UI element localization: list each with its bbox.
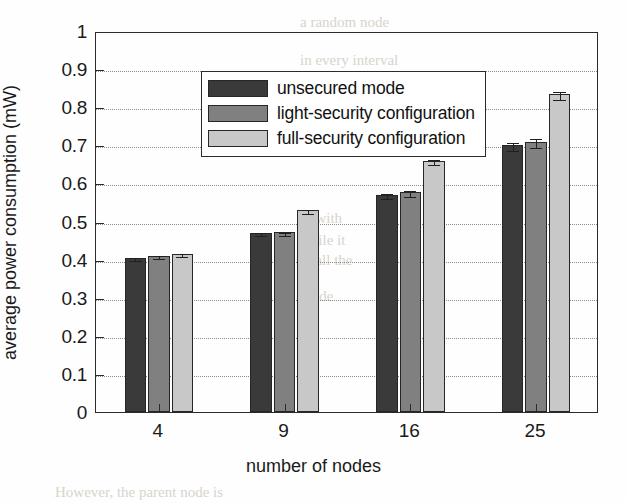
error-bar-cap — [530, 139, 542, 140]
bar — [525, 142, 546, 413]
error-bar — [536, 139, 537, 148]
bar — [148, 256, 169, 412]
x-axis-tick-label: 9 — [278, 420, 289, 442]
error-bar-cap — [553, 100, 565, 101]
error-bar-cap — [153, 259, 165, 260]
y-axis-tick-label: 0.9 — [61, 59, 87, 81]
error-bar-cap — [279, 233, 291, 234]
y-axis-tick-label: 0 — [77, 402, 87, 424]
error-bar-cap — [302, 210, 314, 211]
x-axis-tick-label: 4 — [153, 420, 164, 442]
error-bar — [513, 143, 514, 151]
error-bar-cap — [153, 256, 165, 257]
bar — [125, 258, 146, 412]
error-bar-cap — [129, 261, 141, 262]
legend-label: light-security configuration — [277, 103, 475, 124]
error-bar-cap — [507, 143, 519, 144]
y-axis-tick-label: 0.4 — [61, 250, 87, 272]
legend-item: unsecured mode — [208, 76, 475, 101]
bar — [423, 161, 444, 412]
legend-swatch — [208, 130, 268, 147]
legend-label: unsecured mode — [277, 78, 405, 99]
y-axis-tick-label: 0.5 — [61, 212, 87, 234]
error-bar-cap — [176, 254, 188, 255]
x-axis-tick-mark — [536, 404, 537, 412]
error-bar-cap — [530, 148, 542, 149]
x-axis-tick-label: 25 — [525, 420, 546, 442]
y-axis-tick-label: 0.7 — [61, 135, 87, 157]
plot-area: unsecured modelight-security configurati… — [95, 32, 598, 413]
error-bar-cap — [279, 236, 291, 237]
background-bleed-text: a random node — [300, 14, 389, 31]
bar — [376, 195, 397, 412]
bar — [250, 233, 271, 412]
legend-item: full-security configuration — [208, 126, 475, 151]
legend-label: full-security configuration — [277, 128, 465, 149]
error-bar-cap — [381, 199, 393, 200]
y-axis-tick-labels: 00.10.20.30.40.50.60.70.80.91 — [0, 0, 95, 503]
error-bar-cap — [255, 236, 267, 237]
x-axis-tick-mark — [159, 404, 160, 412]
error-bar-cap — [428, 160, 440, 161]
error-bar-cap — [404, 191, 416, 192]
chart-legend: unsecured modelight-security configurati… — [201, 71, 486, 157]
error-bar-cap — [404, 197, 416, 198]
error-bar-cap — [553, 92, 565, 93]
x-axis-title: number of nodes — [0, 456, 627, 477]
x-axis-tick-mark — [410, 404, 411, 412]
error-bar-cap — [129, 258, 141, 259]
y-axis-tick-label: 0.8 — [61, 97, 87, 119]
bar — [400, 192, 421, 412]
y-axis-tick-label: 0.3 — [61, 288, 87, 310]
bar — [502, 145, 523, 412]
error-bar-cap — [428, 165, 440, 166]
x-axis-tick-label: 16 — [399, 420, 420, 442]
legend-swatch — [208, 105, 268, 122]
legend-swatch — [208, 80, 268, 97]
legend-item: light-security configuration — [208, 101, 475, 126]
x-axis-tick-mark — [285, 404, 286, 412]
error-bar-cap — [255, 233, 267, 234]
error-bar-cap — [302, 214, 314, 215]
y-axis-tick-label: 0.2 — [61, 326, 87, 348]
chart-figure: a random nodein every intervalin withwhi… — [0, 0, 627, 503]
bar — [549, 94, 570, 412]
y-axis-tick-label: 0.6 — [61, 173, 87, 195]
y-axis-tick-label: 1 — [77, 21, 87, 43]
bar — [172, 254, 193, 412]
error-bar-cap — [176, 257, 188, 258]
y-axis-tick-label: 0.1 — [61, 364, 87, 386]
error-bar — [560, 92, 561, 100]
error-bar-cap — [381, 194, 393, 195]
bar — [274, 232, 295, 412]
bar — [297, 210, 318, 412]
error-bar-cap — [507, 151, 519, 152]
